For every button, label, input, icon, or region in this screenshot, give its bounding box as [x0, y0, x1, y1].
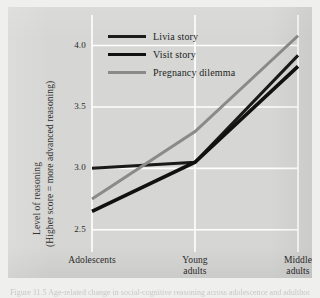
legend-label: Pregnancy dilemma: [153, 67, 235, 78]
legend-swatch-line-icon: [108, 35, 146, 38]
legend-label: Visit story: [153, 49, 196, 60]
x-tick-label-young-adults: Youngadults: [155, 255, 235, 277]
legend-swatch-line-icon: [108, 53, 146, 57]
legend-label: Livia story: [153, 31, 198, 42]
y-tick-label-2.5: 2.5: [56, 224, 86, 234]
y-tick-label-3.5: 3.5: [56, 101, 86, 111]
legend-item-pregnancy-dilemma: Pregnancy dilemma: [108, 67, 235, 78]
y-tick-label-4.0: 4.0: [56, 40, 86, 50]
legend-item-visit-story: Visit story: [108, 49, 235, 60]
chart-legend: Livia storyVisit storyPregnancy dilemma: [108, 31, 235, 78]
x-tick-label-adolescents: Adolescents: [52, 255, 132, 266]
figure-panel: Level of reasoning (Higher score = more …: [8, 7, 312, 278]
legend-swatch-line-icon: [108, 71, 146, 74]
y-tick-label-3.0: 3.0: [56, 162, 86, 172]
legend-item-livia-story: Livia story: [108, 31, 235, 42]
figure-caption-partial: Figure 11.5 Age-related change in social…: [10, 288, 310, 297]
x-tick-label-middle-adults: Middleadults: [258, 255, 312, 277]
